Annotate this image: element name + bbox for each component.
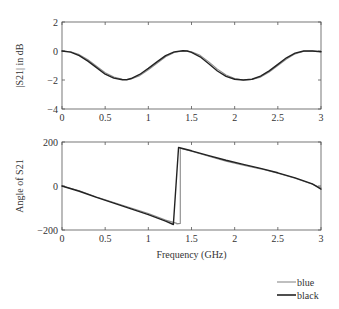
- phase-y-tick-label: 0: [53, 181, 58, 192]
- phase-series: [62, 148, 321, 225]
- magnitude-series-black: [62, 51, 321, 80]
- magnitude-x-tick-label: 0: [60, 112, 65, 123]
- magnitude-series-blue: [62, 51, 321, 80]
- phase-x-tick-label: 3: [319, 233, 324, 244]
- magnitude-x-ticks: 00.511.522.53: [60, 22, 324, 123]
- phase-y-tick-label: 200: [43, 137, 58, 148]
- phase-plot-frame: [62, 142, 321, 230]
- magnitude-plot-frame: [62, 22, 321, 109]
- magnitude-y-tick-label: 2: [53, 17, 58, 28]
- magnitude-series: [62, 51, 321, 80]
- magnitude-y-tick-label: −4: [47, 104, 58, 115]
- phase-x-tick-label: 2.5: [272, 233, 285, 244]
- legend: blue black: [277, 277, 319, 301]
- magnitude-y-axis-label: |S21| in dB: [14, 43, 25, 87]
- magnitude-y-tick-label: 0: [53, 46, 58, 57]
- phase-series-black: [62, 148, 321, 225]
- phase-x-ticks: 00.511.522.53: [60, 142, 324, 244]
- magnitude-y-tick-label: −2: [47, 75, 58, 86]
- magnitude-x-tick-label: 0.5: [99, 112, 112, 123]
- phase-x-tick-label: 0: [60, 233, 65, 244]
- legend-label-blue: blue: [297, 277, 315, 288]
- magnitude-y-ticks: −4−202: [47, 17, 321, 115]
- phase-panel: 00.511.522.53 −2000200 Angle of S21 Freq…: [14, 137, 324, 262]
- magnitude-x-tick-label: 3: [319, 112, 324, 123]
- magnitude-x-tick-label: 2.5: [272, 112, 285, 123]
- phase-x-tick-label: 2: [232, 233, 237, 244]
- phase-x-tick-label: 1.5: [185, 233, 198, 244]
- magnitude-x-tick-label: 2: [232, 112, 237, 123]
- x-axis-label: Frequency (GHz): [156, 249, 226, 261]
- phase-series-blue: [62, 148, 321, 224]
- phase-y-ticks: −2000200: [37, 137, 321, 236]
- magnitude-x-tick-label: 1.5: [185, 112, 198, 123]
- legend-label-black: black: [297, 290, 319, 301]
- magnitude-x-tick-label: 1: [146, 112, 151, 123]
- phase-x-tick-label: 0.5: [99, 233, 112, 244]
- phase-y-tick-label: −200: [37, 225, 58, 236]
- phase-x-tick-label: 1: [146, 233, 151, 244]
- phase-y-axis-label: Angle of S21: [14, 159, 25, 212]
- chart-figure: 00.511.522.53 −4−202 |S21| in dB 00.511.…: [0, 0, 339, 309]
- magnitude-panel: 00.511.522.53 −4−202 |S21| in dB: [14, 17, 324, 124]
